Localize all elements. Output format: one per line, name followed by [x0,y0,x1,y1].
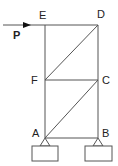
node-label-D: D [97,8,105,20]
support-pin-A [40,138,50,146]
support-block-A [32,146,58,161]
node-label-E: E [39,9,46,21]
support-block-B [85,146,112,161]
load-label-P: P [13,29,20,41]
node-label-B: B [102,127,109,139]
node-label-F: F [31,74,38,86]
member-FD [45,25,98,80]
truss-diagram: E D F C A B P [0,0,118,166]
load-arrow-head-icon [23,22,31,28]
node-label-C: C [102,74,110,86]
support-pin-B [93,138,103,146]
node-label-A: A [32,127,40,139]
member-AC [45,80,98,138]
